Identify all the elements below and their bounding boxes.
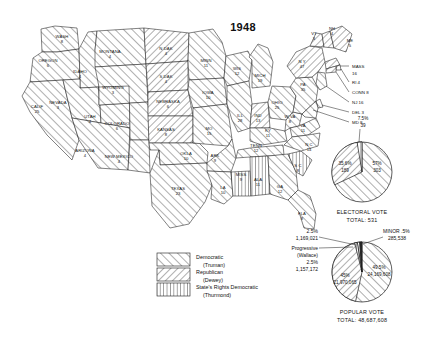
legend-sublabel-statesrights: (Thurmond) — [203, 292, 231, 298]
popular-vote-pie: 45% 21,970,065 49.5% 24,169,608 2.5% 1,1… — [292, 228, 411, 323]
popular-democratic-pct: 49.5% — [372, 265, 385, 270]
popular-statesrights-count: 1,169,021 — [296, 235, 318, 241]
state-votes-TEXAS: 23 — [176, 191, 181, 196]
state-votes-MO: 15 — [207, 131, 212, 136]
legend-swatch-democratic[interactable] — [157, 253, 190, 266]
page-title: 1948 — [230, 21, 256, 33]
legend-sublabel-republican: (Dewey) — [203, 277, 223, 283]
legend-label-republican: Republican — [196, 269, 223, 275]
state-votes-VA: 11 — [301, 128, 306, 133]
state-MINN[interactable] — [188, 29, 226, 80]
state-votes-MINN: 11 — [204, 63, 209, 68]
popular-progressive-count: 1,157,172 — [296, 266, 318, 272]
state-votes-ALA: 11 — [256, 182, 261, 187]
callout-nj: NJ 16 — [352, 100, 364, 105]
state-ALA[interactable] — [250, 156, 270, 196]
popular-progressive-sub: (Wallace) — [297, 252, 318, 258]
state-votes-NC: 14 — [307, 147, 312, 152]
callout-mass: MASS — [352, 64, 365, 69]
state-NC[interactable] — [284, 133, 320, 151]
popular-democratic-count: 24,169,608 — [368, 272, 391, 277]
callout-votes-mass: 16 — [352, 71, 357, 76]
state-ILL[interactable] — [227, 81, 252, 132]
popular-vote-total: TOTAL: 48,687,608 — [337, 317, 387, 323]
legend-sublabel-democratic: (Truman) — [203, 262, 225, 268]
state-FLA[interactable] — [288, 190, 316, 229]
map-legend: Democratic (Truman) Republican (Dewey) S… — [157, 253, 258, 298]
popular-progressive-pct: 2.5% — [307, 259, 319, 265]
electoral-democratic-pct: 57% — [372, 161, 381, 166]
state-votes-WIS: 12 — [235, 71, 240, 76]
state-votes-KY: 11 — [266, 133, 271, 138]
electoral-vote-pie: 35.6% 189 57% 303 7.5% 39 ELECTORAL VOTE… — [332, 116, 392, 223]
electoral-vote-total: TOTAL: 531 — [347, 217, 378, 223]
state-votes-GA: 12 — [278, 189, 283, 194]
state-votes-OHIO: 25 — [275, 105, 280, 110]
electoral-statesrights-pct: 7.5% — [358, 116, 368, 121]
callout-ri: RI 4 — [352, 80, 361, 85]
electoral-statesrights-count: 39 — [360, 123, 366, 128]
legend-swatch-republican[interactable] — [157, 268, 190, 281]
state-OREG[interactable] — [30, 49, 80, 82]
popular-progressive-name: Progressive — [292, 245, 319, 251]
figure-canvas: 1948 — [0, 0, 441, 340]
state-votes-MICH: 19 — [258, 78, 263, 83]
electoral-republican-pct: 35.6% — [338, 161, 351, 166]
state-MONT[interactable] — [95, 28, 146, 67]
popular-republican-count: 21,970,065 — [334, 280, 357, 285]
popular-minor-name: MINOR .5% — [383, 228, 410, 234]
legend-label-democratic: Democratic — [196, 254, 224, 260]
legend-label-statesrights: State's Rights Democratic — [196, 284, 258, 290]
popular-minor-count: 285,538 — [388, 235, 406, 241]
state-votes-TENN: 12 — [254, 148, 259, 153]
state-votes-CALIF: 25 — [35, 109, 40, 114]
electoral-democratic-count: 303 — [373, 168, 381, 173]
popular-statesrights-pct: 2.5% — [307, 228, 319, 234]
popular-vote-title: POPULAR VOTE — [340, 309, 385, 315]
legend-swatch-statesrights[interactable] — [157, 283, 190, 296]
state-votes-IND: 13 — [256, 118, 261, 123]
state-MO[interactable] — [193, 104, 232, 146]
state-votes-OKLA: 10 — [184, 156, 189, 161]
state-votes-PA: 35 — [301, 87, 306, 92]
state-votes-ARIZ: 4 — [84, 153, 87, 158]
electoral-republican-count: 189 — [341, 168, 349, 173]
state-votes-ME: 5 — [349, 43, 352, 48]
state-votes-NY: 47 — [300, 64, 305, 69]
electoral-vote-title: ELECTORAL VOTE — [337, 209, 388, 215]
state-votes-IOWA: 10 — [206, 95, 211, 100]
state-votes-ILL: 28 — [238, 118, 243, 123]
electoral-map-figure: 1948 — [0, 0, 441, 340]
popular-republican-pct: 45% — [340, 273, 349, 278]
state-votes-LA: 10 — [221, 190, 226, 195]
callout-conn: CONN 8 — [352, 90, 369, 95]
callout-del: DEL 3 — [352, 110, 365, 115]
